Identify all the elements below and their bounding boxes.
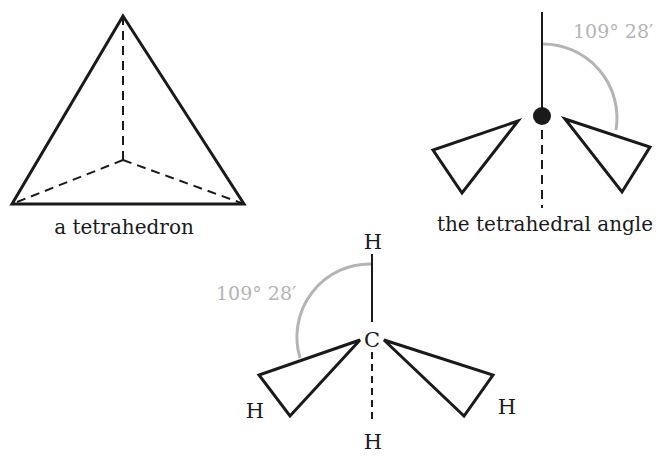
tetrahedron-diagram-canvas: a tetrahedron 109° 28′ the tetrahedral a… — [0, 0, 664, 462]
atom-h-left: H — [246, 399, 264, 423]
methane-angle-arc — [297, 264, 372, 358]
tetrahedron-figure: a tetrahedron — [12, 16, 244, 239]
angle-label-top: 109° 28′ — [573, 20, 653, 42]
atom-h-top: H — [364, 230, 382, 254]
tetrahedron-outline — [12, 16, 244, 204]
tetrahedral-angle-caption: the tetrahedral angle — [437, 212, 653, 236]
angle-arc — [542, 44, 617, 130]
wedge-right — [565, 119, 650, 192]
atom-h-right: H — [498, 395, 516, 419]
angle-label-methane: 109° 28′ — [216, 282, 296, 304]
wedge-left — [433, 121, 518, 193]
tetrahedral-angle-figure: 109° 28′ the tetrahedral angle — [433, 12, 653, 236]
wedge-bond-left — [259, 340, 360, 416]
tetrahedron-caption: a tetrahedron — [54, 215, 194, 239]
methane-figure: C H H H H 109° 28′ — [216, 230, 516, 454]
atom-h-bottom: H — [364, 430, 382, 454]
central-atom-dot — [533, 107, 551, 125]
hidden-edge-left — [12, 160, 123, 204]
atom-c: C — [364, 328, 380, 352]
hidden-edge-right — [123, 160, 244, 204]
wedge-bond-right — [384, 340, 493, 416]
